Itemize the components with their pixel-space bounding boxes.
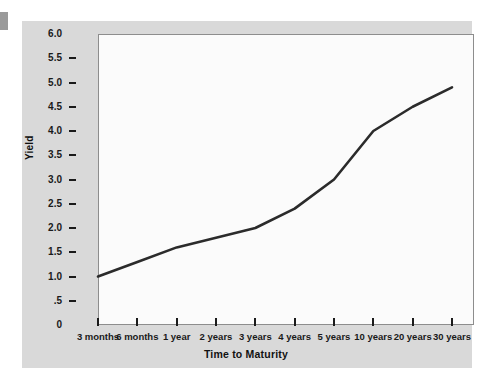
y-axis-tick-label: 5.0: [48, 77, 62, 89]
y-axis-tick-mark: [69, 203, 76, 205]
y-axis-tick-label: 5.5: [48, 52, 62, 64]
y-axis-tick-label: 1.5: [48, 246, 62, 258]
y-axis-tick: 3.0: [22, 174, 76, 186]
y-axis-tick: 4.5: [22, 101, 76, 113]
y-axis-tick-mark: [69, 276, 76, 278]
y-axis-tick-label: 2.5: [48, 198, 62, 210]
y-axis-tick: 1.0: [22, 271, 76, 283]
y-axis-tick-label: 1.0: [48, 271, 62, 283]
y-axis-tick-mark: [69, 179, 76, 181]
y-axis-tick: 2.0: [22, 222, 76, 234]
y-axis-tick-mark: [69, 130, 76, 132]
y-axis-tick-label: 2.0: [48, 222, 62, 234]
y-axis-tick: 0: [22, 319, 76, 331]
plot-area: [98, 34, 474, 325]
y-axis-tick: 1.5: [22, 246, 76, 258]
y-axis-tick: 5.0: [22, 77, 76, 89]
y-axis: 0.51.01.52.02.53.03.54.04.55.05.56.0: [22, 21, 76, 368]
y-axis-title: Yield: [24, 135, 35, 160]
y-axis-tick-mark: [69, 57, 76, 59]
y-axis-tick: 5.5: [22, 52, 76, 64]
y-axis-tick-mark: [69, 154, 76, 156]
y-axis-tick-label: 0: [56, 319, 62, 331]
y-axis-tick-label: 4.5: [48, 101, 62, 113]
y-axis-tick-label: 3.0: [48, 174, 62, 186]
edge-color-swatch: [0, 12, 8, 30]
y-axis-tick: 6.0: [22, 28, 76, 40]
x-axis-title: Time to Maturity: [0, 348, 492, 360]
y-axis-tick-mark: [69, 106, 76, 108]
y-axis-tick-label: 4.0: [48, 125, 62, 137]
y-axis-tick-mark: [69, 300, 76, 302]
y-axis-tick: 2.5: [22, 198, 76, 210]
y-axis-tick-label: 6.0: [48, 28, 62, 40]
y-axis-tick: .5: [22, 295, 76, 307]
y-axis-tick-mark: [69, 227, 76, 229]
y-axis-tick-mark: [69, 251, 76, 253]
y-axis-tick-label: .5: [54, 295, 62, 307]
y-axis-tick-label: 3.5: [48, 149, 62, 161]
figure-panel: [22, 21, 472, 368]
y-axis-tick-mark: [69, 82, 76, 84]
